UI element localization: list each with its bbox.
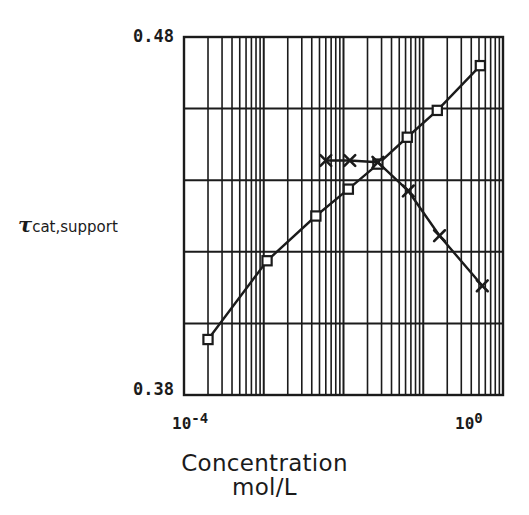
marker-square <box>311 211 320 220</box>
marker-square <box>203 335 212 344</box>
marker-x <box>403 186 414 197</box>
marker-square <box>403 133 412 142</box>
marker-square <box>476 61 485 70</box>
marker-square <box>262 256 271 265</box>
series-falling-series <box>320 155 487 291</box>
figure-root: 0.48 0.38 τcat,support 10-4 100 Concentr… <box>0 0 529 515</box>
marker-x <box>434 230 445 241</box>
marker-square <box>433 106 442 115</box>
marker-square <box>344 185 353 194</box>
plot-canvas <box>0 0 529 515</box>
